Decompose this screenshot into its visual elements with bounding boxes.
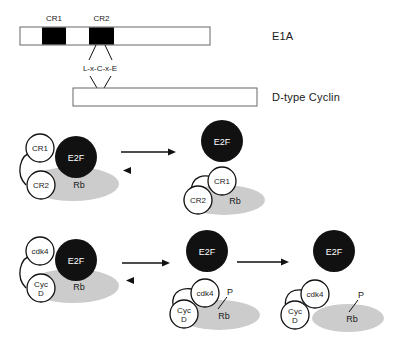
forward-arrow-1 (237, 259, 289, 266)
forward-arrow-head (162, 260, 170, 267)
e2f-circle-label: E2F (326, 247, 343, 257)
e2f-circle-label: E2F (214, 137, 231, 147)
complex-e1a-rb-e2f-bound: CR1 CR2 E2F Rb (20, 134, 119, 201)
reverse-arrow-head (123, 167, 131, 174)
reverse-arrow-head (126, 277, 134, 284)
cycd-circle-label-line2: D (38, 289, 44, 298)
lxcxe-motif-group: L-x-C-x-E (83, 64, 117, 88)
phosphate-label: P (358, 290, 364, 300)
equilibrium-arrow-2 (122, 260, 170, 285)
cycd-circle-label-line1: Cyc (288, 307, 302, 316)
cdk4-circle-label: cdk4 (307, 290, 324, 299)
equilibrium-arrow-1 (121, 149, 176, 175)
cr2-circle-label: CR2 (190, 196, 207, 205)
d-type-cyclin-panel-label: D-type Cyclin (272, 91, 340, 103)
rb-ellipse-label: Rb (73, 282, 85, 292)
phosphate-label: P (227, 287, 233, 297)
cycd-circle-label-line2: D (292, 316, 298, 325)
cr2-circle-label: CR2 (33, 181, 50, 190)
diagram-svg: CR1 CR2 L-x-C-x-E CR1 CR2 E2F Rb (0, 0, 395, 347)
motif-cyclin-leader-right (104, 76, 111, 88)
cr1-bar-label: CR1 (46, 14, 63, 23)
rb-ellipse-label: Rb (229, 196, 241, 206)
cyclin-domain-bar-group (73, 88, 257, 106)
rb-ellipse-label: Rb (73, 180, 85, 190)
rb-ellipse-label: Rb (218, 311, 230, 321)
complex-rb-phospho-released: E2F cdk4 Cyc D P Rb (281, 230, 384, 332)
complex-e1a-rb-bound-e2f-free: E2F CR1 CR2 Rb (183, 120, 265, 215)
e2f-circle-label: E2F (68, 153, 85, 163)
cr1-circle-label: CR1 (214, 177, 231, 186)
cr2-bar-label: CR2 (93, 14, 110, 23)
e1a-domain-bar-group: CR1 CR2 (20, 14, 210, 60)
cycd-circle-label-line1: Cyc (34, 280, 48, 289)
cr1-block (42, 28, 66, 45)
figure-canvas: CR1 CR2 L-x-C-x-E CR1 CR2 E2F Rb (0, 0, 395, 347)
cdk4-circle-label: cdk4 (32, 247, 49, 256)
motif-cyclin-leader-left (90, 76, 97, 88)
d-type-cyclin-bar (73, 88, 257, 106)
e2f-circle-label: E2F (68, 256, 85, 266)
rb-ellipse-label: Rb (346, 314, 358, 324)
cr2-motif-leader-right (105, 45, 112, 60)
cycd-circle-label-line2: D (181, 315, 187, 324)
forward-arrow-head (168, 149, 176, 156)
cr2-block (89, 28, 114, 45)
e2f-circle-label: E2F (199, 247, 216, 257)
e1a-panel-label: E1A (272, 30, 293, 42)
complex-cdk4-cycd-rb-e2f-bound: cdk4 Cyc D E2F Rb (20, 237, 119, 303)
cdk4-circle-label: cdk4 (197, 289, 214, 298)
complex-cdk4-cycd-rb-phospho: E2F cdk4 Cyc D P Rb (170, 230, 260, 330)
cycd-circle-label-line1: Cyc (177, 306, 191, 315)
lxcxe-motif-label: L-x-C-x-E (83, 64, 117, 73)
forward-arrow-head (281, 259, 289, 266)
cr2-motif-leader-left (89, 45, 96, 60)
cr1-circle-label: CR1 (32, 144, 49, 153)
